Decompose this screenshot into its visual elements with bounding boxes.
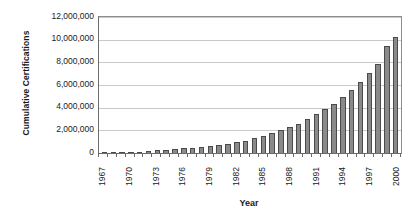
bar-slot [109, 17, 118, 153]
bar [367, 73, 372, 153]
x-tick [205, 153, 206, 157]
bar [331, 104, 336, 153]
x-tick [98, 153, 99, 157]
x-tick [320, 153, 321, 157]
x-tick [196, 153, 197, 157]
x-tick [364, 153, 365, 157]
bar-slot [321, 17, 330, 153]
x-tick-label: 1991 [311, 159, 320, 195]
x-tick-label: 2000 [391, 159, 400, 195]
bar-slot [215, 17, 224, 153]
bar [340, 97, 345, 153]
bar-slot [224, 17, 233, 153]
x-tick-label: 1982 [231, 159, 240, 195]
x-tick-label: 1979 [205, 159, 214, 195]
x-tick [142, 153, 143, 157]
bar-slot [250, 17, 259, 153]
bar [349, 90, 354, 153]
x-tick [285, 153, 286, 157]
bar-slot [277, 17, 286, 153]
y-tick-label: 0 [22, 148, 94, 157]
x-tick-label: 1973 [151, 159, 160, 195]
bar-slot [356, 17, 365, 153]
x-tick-label: 1994 [338, 159, 347, 195]
bar-slot [241, 17, 250, 153]
x-tick-label: 1976 [178, 159, 187, 195]
x-tick [107, 153, 108, 157]
x-tick [116, 153, 117, 157]
x-tick [231, 153, 232, 157]
bar-slot [365, 17, 374, 153]
bar-slot [135, 17, 144, 153]
bar-slot [179, 17, 188, 153]
bar-slot [391, 17, 400, 153]
x-tick [391, 153, 392, 157]
bar-slot [118, 17, 127, 153]
bar-slot [153, 17, 162, 153]
bar [358, 82, 363, 153]
x-tick [125, 153, 126, 157]
bar-slot [312, 17, 321, 153]
bar-slot [171, 17, 180, 153]
x-tick [160, 153, 161, 157]
bar [305, 119, 310, 153]
chart-container: Cumulative Certifications 12,000,00010,0… [0, 0, 418, 217]
bar [278, 130, 283, 153]
bar [261, 136, 266, 153]
x-tick [311, 153, 312, 157]
bar [269, 133, 274, 153]
bar-slot [259, 17, 268, 153]
x-tick [338, 153, 339, 157]
x-tick-label: 1970 [125, 159, 134, 195]
bar-slot [285, 17, 294, 153]
bar-slot [294, 17, 303, 153]
bar [296, 124, 301, 153]
x-tick [249, 153, 250, 157]
bar-slot [206, 17, 215, 153]
bar-series [99, 17, 401, 153]
bar-slot [303, 17, 312, 153]
bar [225, 144, 230, 153]
x-tick [213, 153, 214, 157]
x-tick-label: 1967 [98, 159, 107, 195]
bar [216, 145, 221, 153]
x-axis-title: Year [98, 198, 400, 208]
y-tick-label: 4,000,000 [22, 102, 94, 111]
bar [322, 109, 327, 153]
y-axis-tick-labels: 12,000,00010,000,0008,000,0006,000,0004,… [22, 0, 94, 217]
y-tick-label: 8,000,000 [22, 57, 94, 66]
x-tick [400, 153, 401, 157]
bar-slot [188, 17, 197, 153]
bar-slot [330, 17, 339, 153]
x-tick [178, 153, 179, 157]
x-tick [382, 153, 383, 157]
y-tick-label: 10,000,000 [22, 34, 94, 43]
x-tick [267, 153, 268, 157]
x-tick [258, 153, 259, 157]
x-tick [302, 153, 303, 157]
bar-slot [197, 17, 206, 153]
bar-slot [232, 17, 241, 153]
plot-area [98, 16, 402, 154]
y-tick-label: 2,000,000 [22, 125, 94, 134]
y-tick-label: 12,000,000 [22, 12, 94, 21]
bar [252, 138, 257, 153]
x-tick [329, 153, 330, 157]
x-tick [347, 153, 348, 157]
bar [243, 141, 248, 153]
x-axis-tick-labels: 1967197019731976197919821985198819911994… [98, 158, 400, 194]
x-tick-label: 1985 [258, 159, 267, 195]
bar-slot [338, 17, 347, 153]
bar [375, 64, 380, 153]
x-tick [134, 153, 135, 157]
bar [208, 146, 213, 153]
x-tick [276, 153, 277, 157]
bar-slot [268, 17, 277, 153]
y-tick-label: 6,000,000 [22, 80, 94, 89]
bar-slot [144, 17, 153, 153]
x-tick [293, 153, 294, 157]
bar-slot [162, 17, 171, 153]
x-tick [222, 153, 223, 157]
bar [384, 46, 389, 153]
x-tick [187, 153, 188, 157]
